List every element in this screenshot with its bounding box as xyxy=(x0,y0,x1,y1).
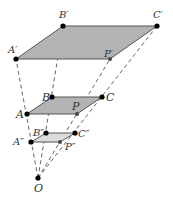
point-aprime xyxy=(13,56,18,61)
label-c-prime: C′ xyxy=(153,9,164,20)
point-cprime xyxy=(154,23,159,28)
dilation-diagram: A′B′C′P′BACPB″A″C″P″O xyxy=(0,0,173,204)
parallelograms xyxy=(16,26,157,142)
label-b-double-prime: B″ xyxy=(32,127,44,138)
label-b-prime: B′ xyxy=(58,9,69,20)
label-b: B xyxy=(41,91,50,104)
label-a-prime: A′ xyxy=(7,44,18,55)
point-o xyxy=(35,175,40,180)
projection-line-4 xyxy=(38,59,110,178)
label-o: O xyxy=(34,182,43,195)
point-cprimeprime xyxy=(72,130,77,135)
label-c: C xyxy=(106,91,115,104)
label-p-double-prime: P″ xyxy=(64,141,76,152)
point-a xyxy=(24,111,29,116)
point-bprimeprime xyxy=(43,130,48,135)
point-aprimeprime xyxy=(28,139,33,144)
label-p-prime: P′ xyxy=(103,48,114,59)
point-b xyxy=(49,94,54,99)
label-a-double-prime: A″ xyxy=(12,136,24,147)
point-pprimeprime xyxy=(58,140,62,144)
label-c-double-prime: C″ xyxy=(78,128,90,139)
parallelogram-original xyxy=(27,97,102,114)
point-bprime xyxy=(60,23,65,28)
parallelogram-image-large xyxy=(16,26,157,59)
point-c xyxy=(99,94,104,99)
label-p: P xyxy=(71,100,80,113)
label-a: A xyxy=(15,108,24,121)
